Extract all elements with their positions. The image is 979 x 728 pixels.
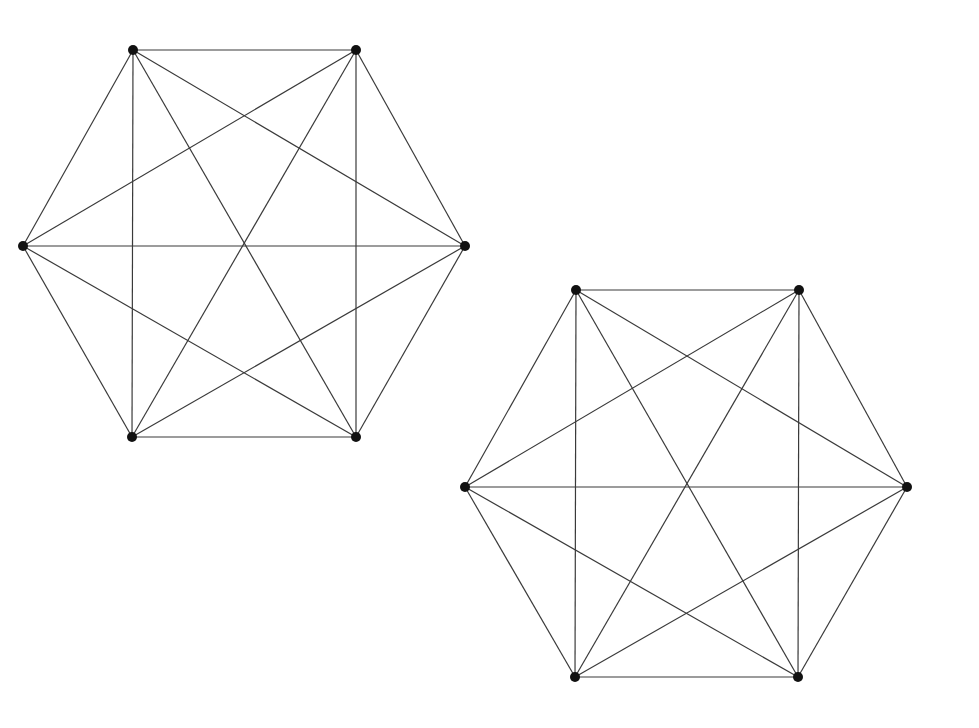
graph-edge	[23, 246, 356, 437]
graph-edge	[23, 50, 356, 246]
graph-edge	[798, 487, 907, 677]
graph-vertex	[351, 432, 361, 442]
graph-edge	[132, 246, 465, 437]
graph-canvas	[0, 0, 979, 728]
graph-vertex	[127, 432, 137, 442]
graph-edge	[465, 487, 798, 677]
graph-edge	[575, 290, 576, 677]
graph-edge	[575, 487, 907, 677]
graph-edge	[356, 50, 465, 246]
graph-vertex	[128, 45, 138, 55]
graph-edge	[465, 487, 575, 677]
graph-vertex	[570, 672, 580, 682]
graph-vertex	[18, 241, 28, 251]
graph-edge	[23, 50, 133, 246]
graph-edge	[465, 290, 576, 487]
graph-edge	[575, 290, 799, 677]
graph-edge	[23, 246, 132, 437]
graph-vertex	[351, 45, 361, 55]
graph-vertex	[794, 285, 804, 295]
graph-edge	[132, 50, 133, 437]
graph-edge	[799, 290, 907, 487]
graph-edge	[798, 290, 799, 677]
k6-graph-right	[460, 285, 912, 682]
graph-vertex	[460, 482, 470, 492]
graph-vertex	[902, 482, 912, 492]
graph-vertex	[460, 241, 470, 251]
graph-vertex	[571, 285, 581, 295]
k6-graph-left	[18, 45, 470, 442]
graph-edge	[356, 246, 465, 437]
graph-edge	[465, 290, 799, 487]
graph-vertex	[793, 672, 803, 682]
